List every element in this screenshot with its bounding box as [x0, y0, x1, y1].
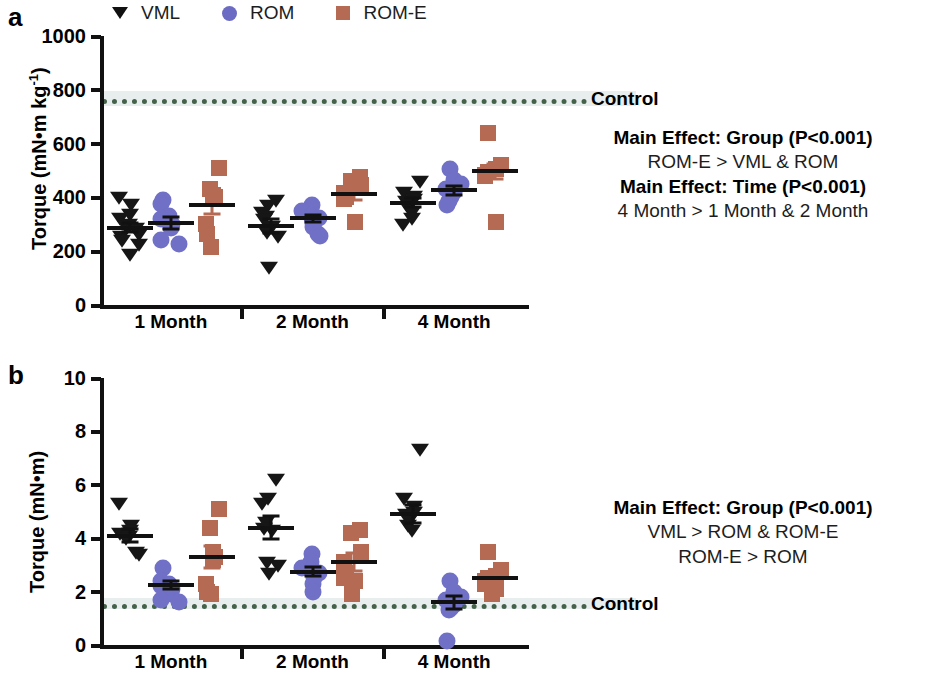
x-axis-line	[100, 645, 529, 649]
legend-label-rom-e: ROM-E	[363, 2, 426, 24]
error-bar-cap-upper	[345, 552, 362, 555]
error-bar-cap-lower	[446, 193, 463, 196]
data-point-rom	[153, 232, 170, 249]
mean-line-rom-e	[331, 560, 377, 564]
stats-a-line-4: 4 Month > 1 Month & 2 Month	[560, 199, 926, 223]
y-tick	[91, 590, 101, 594]
legend-label-rom: ROM	[250, 2, 294, 24]
data-point-vml	[260, 262, 278, 275]
y-tick	[91, 196, 101, 200]
data-point-rom-e	[480, 125, 496, 141]
panel-b-stats: Main Effect: Group (P<0.001) VML > ROM &…	[560, 496, 926, 569]
mean-line-vml	[390, 201, 436, 205]
mean-line-vml	[107, 226, 153, 230]
error-bar-cap-lower	[487, 177, 504, 180]
square-icon	[336, 6, 350, 20]
data-point-rom-e	[203, 239, 219, 255]
y-label-text-b: Torque (mN•m)	[26, 451, 48, 593]
y-axis-line	[100, 36, 104, 307]
data-point-rom	[311, 228, 328, 245]
y-label-close-a: )	[28, 67, 50, 74]
error-bar-cap-lower	[263, 231, 280, 234]
y-tick	[91, 537, 101, 541]
control-label: Control	[591, 593, 659, 615]
mean-line-vml	[107, 534, 153, 538]
x-tick	[382, 309, 386, 319]
stats-a-line-2: ROM-E > VML & ROM	[560, 150, 926, 174]
error-bar-cap-upper	[446, 594, 463, 597]
y-tick-label: 200	[12, 240, 86, 263]
error-bar-cap-upper	[263, 217, 280, 220]
y-tick	[91, 430, 101, 434]
data-point-rom	[171, 236, 188, 253]
y-tick-label: 4	[12, 527, 86, 550]
data-point-rom-e	[211, 501, 227, 517]
data-point-vml	[267, 474, 285, 487]
data-point-vml	[411, 176, 429, 189]
y-tick-label: 600	[12, 132, 86, 155]
mean-line-rom	[148, 583, 194, 587]
error-bar-cap-lower	[304, 220, 321, 223]
legend-entry-rom-e: ROM-E	[336, 2, 426, 24]
error-bar-cap-upper	[203, 193, 220, 196]
data-point-vml	[394, 219, 412, 232]
mean-line-rom-e	[331, 192, 377, 196]
mean-line-vml	[248, 526, 294, 530]
error-bar-cap-lower	[121, 541, 138, 544]
data-point-rom	[153, 591, 170, 608]
data-point-rom	[305, 583, 322, 600]
data-point-rom	[171, 594, 188, 611]
x-tick-label: 1 Month	[134, 311, 207, 333]
error-bar-cap-lower	[405, 521, 422, 524]
y-tick-label: 0	[12, 294, 86, 317]
error-bar-cap-lower	[203, 566, 220, 569]
error-bar-cap-upper	[121, 221, 138, 224]
error-bar-cap-lower	[263, 537, 280, 540]
error-bar-cap-upper	[345, 187, 362, 190]
error-bar-cap-upper	[162, 216, 179, 219]
control-label: Control	[591, 88, 659, 110]
stats-a-line-3: Main Effect: Time (P<0.001)	[560, 175, 926, 199]
stats-b-line-3: ROM-E > ROM	[560, 545, 926, 569]
mean-line-vml	[248, 224, 294, 228]
error-bar-cap-lower	[345, 198, 362, 201]
y-tick	[91, 35, 101, 39]
data-point-rom-e	[353, 177, 369, 193]
panel-b-y-axis-label: Torque (mN•m)	[26, 451, 49, 593]
error-bar-cap-upper	[203, 545, 220, 548]
y-tick	[91, 483, 101, 487]
mean-line-rom-e	[189, 555, 235, 559]
y-tick	[91, 644, 101, 648]
error-bar-cap-upper	[446, 184, 463, 187]
mean-line-rom	[290, 570, 336, 574]
panel-b: b Torque (mN•m) Control02468101 Month2 M…	[0, 348, 926, 690]
legend: VML ROM ROM-E	[112, 2, 427, 24]
data-point-vml	[130, 549, 148, 562]
mean-line-rom	[290, 216, 336, 220]
control-reference-line	[102, 99, 587, 104]
y-tick-label: 400	[12, 186, 86, 209]
y-tick-label: 1000	[12, 25, 86, 48]
y-tick-label: 800	[12, 78, 86, 101]
x-tick-label: 4 Month	[418, 311, 491, 333]
y-tick-label: 2	[12, 580, 86, 603]
circle-icon	[222, 6, 237, 21]
data-point-vml	[110, 498, 128, 511]
y-tick-label: 8	[12, 420, 86, 443]
y-tick	[91, 88, 101, 92]
error-bar-cap-upper	[263, 515, 280, 518]
stats-b-line-2: VML > ROM & ROM-E	[560, 520, 926, 544]
data-point-vml	[113, 235, 131, 248]
error-bar-cap-upper	[487, 571, 504, 574]
error-bar-cap-upper	[162, 579, 179, 582]
legend-label-vml: VML	[141, 2, 180, 24]
error-bar-cap-lower	[162, 227, 179, 230]
data-point-rom-e	[347, 214, 363, 230]
y-tick-label: 0	[12, 634, 86, 657]
y-axis-line	[100, 378, 104, 647]
error-bar-cap-upper	[405, 504, 422, 507]
data-point-rom	[439, 632, 456, 649]
error-bar-cap-lower	[345, 570, 362, 573]
error-bar-cap-lower	[405, 206, 422, 209]
mean-line-rom-e	[472, 169, 518, 173]
